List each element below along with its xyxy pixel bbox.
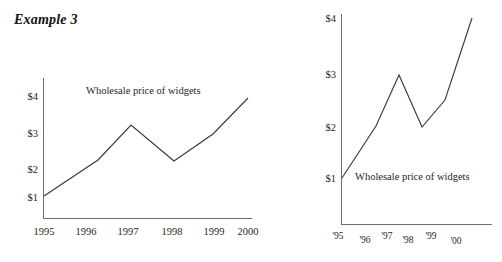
y-tick-label: $3 [14,129,38,140]
y-tick-label: $1 [14,193,38,204]
y-tick-label: $1 [312,174,336,185]
page-title: Example 3 [14,12,78,28]
chart-compressed-axis-canvas [300,6,502,262]
y-tick-label: $2 [14,165,38,176]
data-series-line [342,18,472,178]
chart-compressed-axis: $4 $3 $2 $1 '95 '96 '97 '98 '99 '00 Whol… [300,6,502,262]
y-tick-label: $2 [312,123,336,134]
chart-wide-axis: $4 $3 $2 $1 1995 1996 1997 1998 1999 200… [0,60,270,262]
y-tick-label: $4 [312,14,336,25]
x-tick-label: 1998 [148,227,196,238]
chart-caption: Wholesale price of widgets [355,172,470,183]
x-tick-label: 1997 [104,227,152,238]
x-tick-label: 2000 [224,227,272,238]
y-tick-label: $4 [14,92,38,103]
x-tick-label: '95 [323,232,353,242]
example-figure-page: Example 3 $4 $3 $2 $1 1995 1996 1997 199… [0,0,502,262]
chart-caption: Wholesale price of widgets [86,86,201,97]
y-tick-label: $3 [312,70,336,81]
data-series-line [44,98,248,196]
x-tick-label: '00 [441,237,471,247]
x-tick-label: 1995 [20,227,68,238]
x-tick-label: 1996 [62,227,110,238]
